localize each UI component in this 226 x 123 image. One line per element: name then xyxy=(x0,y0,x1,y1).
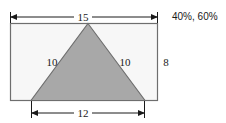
triangle-right-side-label: 10 xyxy=(120,56,132,68)
rectangle-height-label: 8 xyxy=(163,56,169,68)
bottom-dimension-label: 12 xyxy=(78,107,89,119)
arrowhead-right-top xyxy=(151,14,158,20)
top-dimension-label: 15 xyxy=(78,11,90,23)
arrowhead-right-bottom xyxy=(138,110,145,116)
geometry-diagram: 15 12 10 10 8 40%, 60% xyxy=(0,0,226,123)
triangle-left-side-label: 10 xyxy=(47,56,59,68)
arrowhead-left-bottom xyxy=(31,110,38,116)
arrowhead-left-top xyxy=(10,14,17,20)
percent-annotation: 40%, 60% xyxy=(172,11,218,22)
figure-container: 15 12 10 10 8 40%, 60% xyxy=(0,0,226,123)
